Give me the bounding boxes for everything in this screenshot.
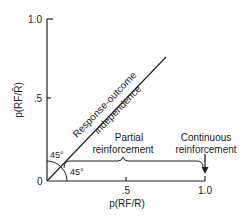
x-tick-label-05: .5 xyxy=(122,185,131,196)
x-tick-label-1: 1.0 xyxy=(198,185,212,196)
diagram-canvas: 1.0 .5 p(RF/R̄) 0 .5 1.0 p(RF/R) Respons… xyxy=(0,0,252,219)
continuous-label-line2: reinforcement xyxy=(175,144,236,155)
partial-label-line1: Partial xyxy=(115,132,143,143)
partial-label-line2: reinforcement xyxy=(92,144,153,155)
y-tick-label-1: 1.0 xyxy=(28,14,42,25)
angle-label-upper: 45° xyxy=(50,150,64,160)
continuous-label-line1: Continuous xyxy=(181,132,232,143)
x-axis-label: p(RF/R) xyxy=(109,198,145,209)
y-axis-label: p(RF/R̄) xyxy=(12,82,24,118)
y-tick-label-05: .5 xyxy=(34,93,43,104)
angle-label-lower: 45° xyxy=(70,167,84,177)
angle-arc-lower xyxy=(61,167,67,181)
partial-bracket xyxy=(64,157,203,168)
origin-label: 0 xyxy=(37,176,43,187)
angle-arc-upper xyxy=(47,161,61,167)
